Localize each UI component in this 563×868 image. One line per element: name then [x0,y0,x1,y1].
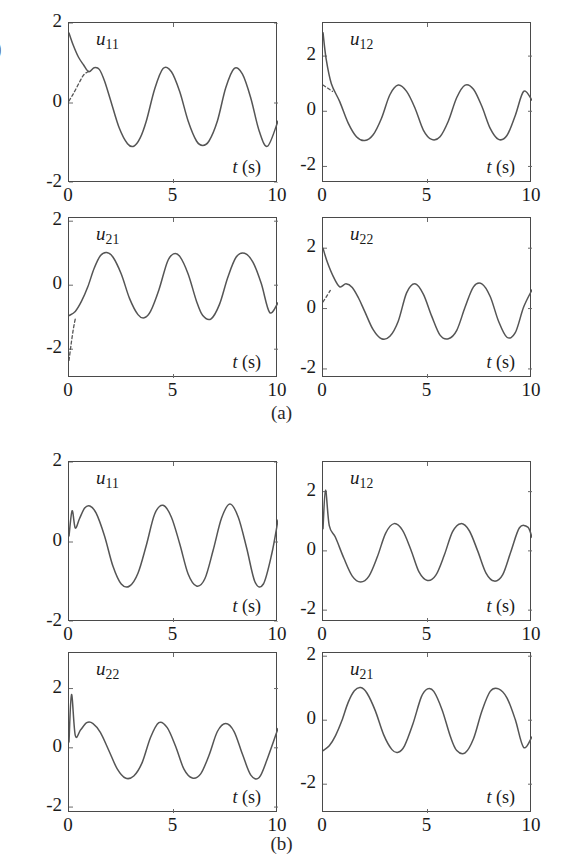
series-label-subscript: 21 [106,232,120,247]
series-label-base: u [96,467,106,488]
series-label-u21: u21 [96,223,120,248]
curve-dashed-transient [69,71,89,101]
subplot-a-u11: u11t (s)20-20510 [68,22,277,182]
xtick-label: 10 [511,184,551,206]
series-label-u21: u21 [350,658,374,683]
curve-dashed-transient [323,85,332,91]
xtick-label: 5 [153,623,193,645]
xaxis-label-unit: (s) [492,787,516,807]
panel-caption-a: (a) [0,402,563,424]
figure-root: ) u11t (s)20-20510u12t (s)20-20510u21t (… [0,0,563,868]
subplot-b-u21: u21t (s)20-20510 [322,652,531,812]
ytick-label: 2 [276,43,316,65]
curve-solid [69,694,278,778]
curve-solid [323,687,532,753]
series-label-subscript: 21 [360,667,374,682]
series-label-u22: u22 [350,223,374,248]
ytick-label: 0 [22,90,62,112]
ytick-label: 2 [276,479,316,501]
xtick-label: 10 [257,623,297,645]
series-label-base: u [96,28,106,49]
xtick-label: 5 [407,623,447,645]
ytick-label: 0 [276,296,316,318]
edge-artifact-glyph: ) [0,36,2,62]
xaxis-label-unit: (s) [492,596,516,616]
xtick-label: 0 [302,379,342,401]
ytick-label: 2 [22,10,62,32]
series-label-base: u [96,658,106,679]
series-label-base: u [350,28,360,49]
curve-solid [69,504,278,587]
xaxis-label: t (s) [486,352,515,373]
ytick-label: 0 [22,529,62,551]
series-label-base: u [350,467,360,488]
series-label-base: u [350,658,360,679]
ytick-label: 0 [22,272,62,294]
xtick-label: 5 [153,379,193,401]
xtick-label: 0 [302,184,342,206]
xtick-label: 0 [48,623,88,645]
ytick-label: -2 [276,356,316,378]
series-label-subscript: 22 [360,232,374,247]
ytick-label: 0 [276,707,316,729]
series-label-subscript: 11 [106,476,120,491]
xtick-label: 0 [302,623,342,645]
series-label-u22: u22 [96,658,120,683]
xtick-label: 10 [257,379,297,401]
xaxis-label: t (s) [232,157,261,178]
xaxis-label: t (s) [232,596,261,617]
ytick-label: 0 [276,538,316,560]
ytick-label: 0 [276,98,316,120]
ytick-label: 0 [22,735,62,757]
ytick-label: -2 [276,153,316,175]
xaxis-label-unit: (s) [238,352,262,372]
series-label-subscript: 22 [106,667,120,682]
series-label-u11: u11 [96,28,119,53]
xaxis-label: t (s) [232,352,261,373]
xtick-label: 5 [153,184,193,206]
xtick-label: 10 [257,184,297,206]
xtick-label: 5 [407,379,447,401]
ytick-label: 2 [276,643,316,665]
xtick-label: 0 [48,379,88,401]
series-label-u12: u12 [350,467,374,492]
ytick-label: 2 [22,208,62,230]
subplot-b-u12: u12t (s)20-20510 [322,461,531,621]
ytick-label: 2 [22,449,62,471]
xaxis-label-unit: (s) [238,787,262,807]
series-label-subscript: 11 [106,37,120,52]
subplot-b-u11: u11t (s)20-20510 [68,461,277,621]
ytick-label: -2 [276,597,316,619]
xaxis-label-unit: (s) [492,352,516,372]
subplot-b-u22: u22t (s)20-20510 [68,652,277,812]
xtick-label: 0 [48,184,88,206]
subplot-a-u12: u12t (s)20-20510 [322,22,531,182]
ytick-label: -2 [22,336,62,358]
ytick-label: -2 [276,771,316,793]
xtick-label: 10 [511,623,551,645]
curve-solid [323,490,532,582]
curve-solid [323,248,532,339]
xaxis-label: t (s) [486,787,515,808]
series-label-base: u [350,223,360,244]
xaxis-label: t (s) [486,596,515,617]
series-label-u12: u12 [350,28,374,53]
panel-caption-b: (b) [0,833,563,855]
xaxis-label: t (s) [232,787,261,808]
xaxis-label: t (s) [486,157,515,178]
subplot-a-u21: u21t (s)20-20510 [68,217,277,377]
xtick-label: 5 [407,184,447,206]
series-label-subscript: 12 [360,476,374,491]
ytick-label: 2 [276,235,316,257]
series-label-u11: u11 [96,467,119,492]
xtick-label: 10 [511,379,551,401]
xaxis-label-unit: (s) [238,157,262,177]
curve-solid [69,253,278,320]
series-label-subscript: 12 [360,37,374,52]
xaxis-label-unit: (s) [492,157,516,177]
xaxis-label-unit: (s) [238,596,262,616]
ytick-label: 2 [22,676,62,698]
curve-dashed-transient [69,319,75,361]
ytick-label: -2 [22,794,62,816]
curve-dashed-transient [323,290,330,301]
